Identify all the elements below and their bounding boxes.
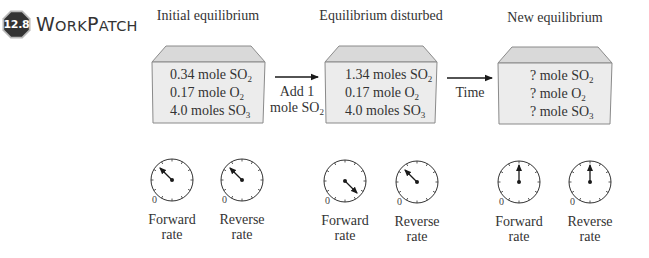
gauge-zero-label: 0	[325, 195, 330, 206]
forward-rate-gauge	[324, 160, 366, 202]
line-so3: 4.0 moles SO3	[345, 102, 432, 120]
box-new-contents: ? mole SO2 ? mole O2 ? mole SO3	[530, 67, 594, 121]
line-o2: 0.17 mole O2	[170, 84, 252, 102]
line-so3: 4.0 moles SO3	[170, 102, 252, 120]
line-so2: 0.34 mole SO2	[170, 66, 252, 84]
forward-rate-gauge	[151, 159, 193, 201]
gauge-zero-label: 0	[152, 194, 157, 205]
reverse-rate-gauge	[396, 161, 438, 203]
reverse-rate-label: Reverserate	[207, 212, 277, 242]
box-disturbed-contents: 1.34 moles SO2 0.17 mole O2 4.0 moles SO…	[345, 66, 432, 120]
gauge-zero-label: 0	[570, 196, 575, 207]
line-o2: 0.17 mole O2	[345, 84, 432, 102]
box-initial-contents: 0.34 mole SO2 0.17 mole O2 4.0 moles SO3	[170, 66, 252, 120]
forward-rate-gauge	[498, 161, 540, 203]
line-o2: ? mole O2	[530, 85, 594, 103]
arrow-time-label: Time	[447, 85, 493, 101]
line-so2: 1.34 moles SO2	[345, 66, 432, 84]
arrow-label-line: mole SO2	[266, 100, 328, 116]
reverse-rate-label: Reverserate	[382, 214, 452, 244]
reverse-rate-label: Reverserate	[555, 214, 625, 244]
forward-rate-label: Forwardrate	[310, 213, 380, 243]
gauge-zero-label: 0	[499, 196, 504, 207]
arrow-add-label: Add 1 mole SO2	[266, 84, 328, 116]
stage-title-initial: Initial equilibrium	[148, 8, 268, 24]
gauge-zero-label: 0	[397, 196, 402, 207]
stage-title-new: New equilibrium	[500, 10, 610, 26]
arrow-label-line: Add 1	[266, 84, 328, 100]
line-so2: ? mole SO2	[530, 67, 594, 85]
forward-rate-label: Forwardrate	[137, 212, 207, 242]
forward-rate-label: Forwardrate	[484, 214, 554, 244]
stage-title-disturbed: Equilibrium disturbed	[316, 8, 446, 24]
gauge-zero-label: 0	[222, 194, 227, 205]
reverse-rate-gauge	[569, 161, 611, 203]
reverse-rate-gauge	[221, 159, 263, 201]
line-so3: ? mole SO3	[530, 103, 594, 121]
